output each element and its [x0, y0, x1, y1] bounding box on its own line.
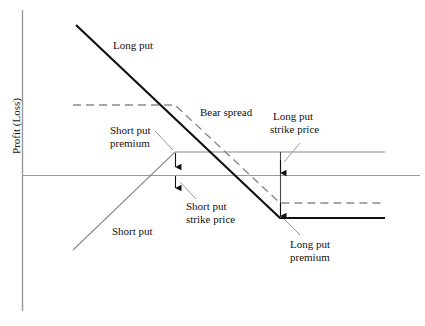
short-put-label: Short put [112, 225, 153, 238]
long-put-premium-label-line2: premium [290, 251, 330, 264]
long-put-strike-label-line1: Long put [273, 110, 313, 123]
short-put-strike-label-line1: Short put [186, 200, 227, 213]
long-put-premium-leader [284, 219, 300, 235]
short-put-strike-label-line2: strike price [186, 213, 235, 226]
bear-spread-payoff-diagram: Profit (Loss) [0, 0, 425, 326]
short-put-premium-label-line1: Short put [110, 124, 151, 137]
short-put-strike-leader [180, 182, 196, 199]
bear-spread-line [73, 105, 385, 203]
long-put-strike-label-line2: strike price [270, 123, 319, 136]
long-put-line [76, 25, 385, 218]
bear-spread-label: Bear spread [200, 106, 252, 119]
long-put-label: Long put [113, 39, 153, 52]
long-put-premium-label-line1: Long put [290, 238, 330, 251]
short-put-premium-label-line2: premium [110, 137, 150, 150]
short-put-premium-leader [155, 131, 173, 150]
payoff-chart-canvas [0, 0, 425, 326]
